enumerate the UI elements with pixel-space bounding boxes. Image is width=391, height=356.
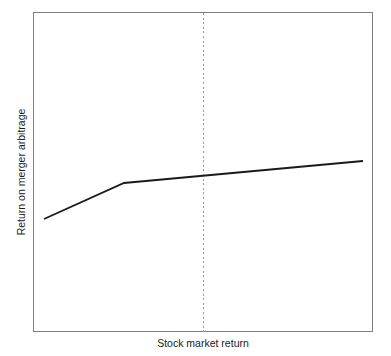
plot-canvas: [34, 13, 374, 333]
plot-area: [33, 12, 373, 332]
x-axis-label: Stock market return: [33, 336, 373, 350]
y-axis-label: Return on merger arbitrage: [13, 12, 29, 332]
chart-figure: Return on merger arbitrage Stock market …: [0, 0, 391, 356]
